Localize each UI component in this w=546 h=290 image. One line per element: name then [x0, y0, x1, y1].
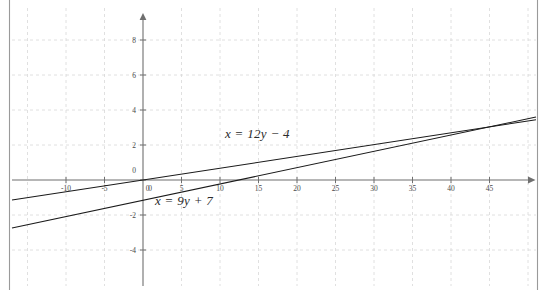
origin-label: 0 — [148, 184, 152, 193]
y-axis: 8 6 4 2 0 -2 -4 — [130, 13, 147, 286]
vertical-gridlines — [28, 8, 529, 286]
xtick-label-30: 30 — [370, 184, 378, 193]
horizontal-gridlines — [12, 40, 536, 250]
ytick-label-6: 6 — [132, 71, 136, 80]
ytick-label-0: 0 — [132, 166, 136, 175]
x-axis-arrowhead — [528, 177, 536, 184]
xtick-label-15: 15 — [255, 184, 263, 193]
x-axis: -10 -5 0 5 10 15 20 25 30 35 40 45 — [12, 177, 536, 193]
ytick-label--4: -4 — [130, 246, 136, 255]
y-axis-arrowhead — [140, 13, 147, 20]
xtick-label-40: 40 — [447, 184, 455, 193]
equation-label-line1: x = 12y − 4 — [225, 126, 290, 142]
ytick-label--2: -2 — [130, 211, 136, 220]
ytick-label-8: 8 — [132, 36, 136, 45]
xtick-label-45: 45 — [486, 184, 494, 193]
coordinate-plane-plot: -10 -5 0 5 10 15 20 25 30 35 40 45 8 6 — [0, 0, 546, 290]
equation-label-line2: x = 9y + 7 — [155, 193, 213, 209]
ytick-label-4: 4 — [132, 106, 136, 115]
chart-screenshot: -10 -5 0 5 10 15 20 25 30 35 40 45 8 6 — [0, 0, 546, 290]
xtick-label-10: 10 — [216, 184, 224, 193]
xtick-label-35: 35 — [409, 184, 417, 193]
xtick-label-25: 25 — [332, 184, 340, 193]
ytick-label-2: 2 — [132, 141, 136, 150]
xtick-label-20: 20 — [293, 184, 301, 193]
